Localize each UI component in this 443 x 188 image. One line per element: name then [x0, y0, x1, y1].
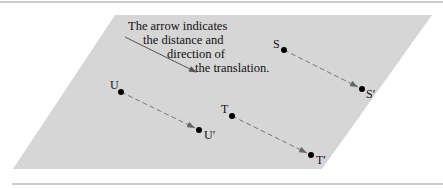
caption-line-1: The arrow indicates — [128, 19, 227, 33]
caption-line-3: direction of — [167, 47, 226, 61]
label-t-prime: T′ — [316, 153, 326, 167]
label-u: U — [110, 78, 119, 92]
point-u-prime — [196, 127, 202, 133]
point-t-prime — [308, 152, 314, 158]
translation-diagram: The arrow indicates the distance and dir… — [0, 0, 443, 188]
point-u — [118, 89, 124, 95]
caption-line-4: the translation. — [195, 61, 269, 75]
label-t: T — [221, 102, 229, 116]
label-s-prime: S′ — [366, 87, 376, 101]
label-s: S — [273, 37, 280, 51]
point-s-prime — [359, 86, 365, 92]
point-s — [281, 47, 287, 53]
caption-line-2: the distance and — [143, 33, 224, 47]
point-t — [229, 113, 235, 119]
label-u-prime: U′ — [204, 128, 216, 142]
